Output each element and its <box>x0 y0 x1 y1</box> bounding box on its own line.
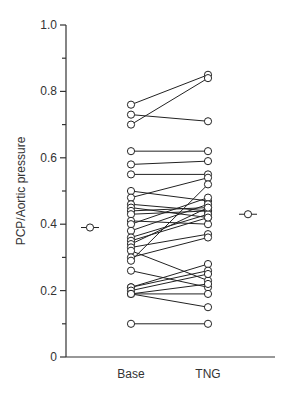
pair-line <box>131 274 208 291</box>
y-tick-label: 0 <box>50 350 57 364</box>
tng-point <box>204 158 211 165</box>
mean-markers <box>81 211 257 231</box>
tng-point <box>204 181 211 188</box>
y-tick-label: 0.4 <box>40 217 57 231</box>
tng-point <box>204 280 211 287</box>
tng-point <box>204 270 211 277</box>
base-point <box>127 161 134 168</box>
tng-point <box>204 234 211 241</box>
x-label-base: Base <box>117 367 145 381</box>
base-point <box>127 211 134 218</box>
tng-point <box>204 304 211 311</box>
base-point <box>127 267 134 274</box>
pair-line <box>131 161 208 164</box>
tng-point <box>204 194 211 201</box>
base-point <box>127 121 134 128</box>
pair-line <box>131 294 208 307</box>
tng-point <box>204 290 211 297</box>
base-point <box>127 148 134 155</box>
base-point <box>127 111 134 118</box>
y-tick-label: 0.6 <box>40 151 57 165</box>
paired-scatter-chart: 00.20.40.60.81.0 PCP/Aortic pressure Bas… <box>0 0 285 405</box>
axes <box>66 25 275 357</box>
tng-point <box>204 118 211 125</box>
base-point <box>127 257 134 264</box>
pair-line <box>131 284 208 294</box>
mean-tng-marker <box>244 211 251 218</box>
base-point <box>127 187 134 194</box>
pair-lines <box>131 75 208 324</box>
tng-point <box>204 320 211 327</box>
tng-point <box>204 214 211 221</box>
base-point <box>127 221 134 228</box>
pair-line <box>131 75 208 105</box>
base-point <box>127 101 134 108</box>
tng-point <box>204 148 211 155</box>
base-point <box>127 320 134 327</box>
y-tick-label: 1.0 <box>40 18 57 32</box>
y-ticks: 00.20.40.60.81.0 <box>40 18 66 364</box>
tng-point <box>204 204 211 211</box>
base-point <box>127 171 134 178</box>
base-point <box>127 290 134 297</box>
base-point <box>127 194 134 201</box>
x-label-tng: TNG <box>195 367 220 381</box>
tng-point <box>204 221 211 228</box>
base-point <box>127 227 134 234</box>
y-axis-label: PCP/Aortic pressure <box>14 136 28 245</box>
tng-point <box>204 174 211 181</box>
tng-point <box>204 260 211 267</box>
mean-base-marker <box>86 224 93 231</box>
base-point <box>127 247 134 254</box>
y-tick-label: 0.8 <box>40 84 57 98</box>
tng-point <box>204 75 211 82</box>
pair-line <box>131 178 208 198</box>
y-tick-label: 0.2 <box>40 284 57 298</box>
